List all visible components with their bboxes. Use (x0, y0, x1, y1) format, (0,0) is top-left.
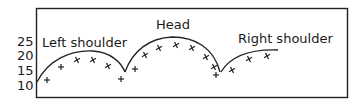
label-right-shoulder: Right shoulder (238, 31, 333, 46)
chart-frame (37, 9, 348, 98)
y-tick-15: 15 (17, 63, 34, 78)
y-tick-20: 20 (17, 48, 34, 63)
y-tick-10: 10 (17, 78, 34, 93)
head-and-shoulders-chart: 25 20 15 10 Left shoulder Head Right sho… (0, 0, 363, 104)
curve-head (125, 37, 220, 72)
y-tick-25: 25 (17, 34, 34, 49)
label-head: Head (156, 17, 190, 32)
label-left-shoulder: Left shoulder (42, 35, 128, 50)
curve-left-shoulder (37, 51, 125, 82)
